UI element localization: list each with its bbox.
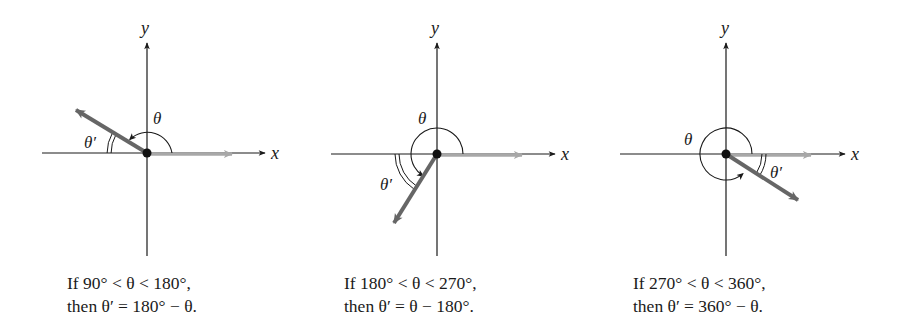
terminal-side-arrow (726, 154, 798, 200)
caption-quadrant-3: If 180° < θ < 270°, then θ′ = θ − 180°. (344, 272, 477, 318)
origin-vertex (143, 149, 152, 158)
theta-arc (130, 132, 172, 153)
origin-vertex (722, 150, 731, 159)
panel-quadrant-2: x y θ θ′ (42, 18, 279, 256)
y-axis-label: y (429, 18, 439, 38)
caption-quadrant-2: If 90° < θ < 180°, then θ′ = 180° − θ. (67, 272, 197, 318)
caption-formula: then θ′ = θ − 180°. (344, 295, 477, 318)
y-axis-label: y (139, 18, 149, 38)
theta-prime-arc-inner (111, 135, 116, 153)
caption-condition: If 270° < θ < 360°, (633, 272, 766, 295)
theta-prime-arc-inner (399, 154, 416, 186)
origin-vertex (433, 150, 442, 159)
theta-prime-label: θ′ (84, 133, 96, 152)
x-axis-label: x (850, 144, 859, 164)
theta-prime-label: θ′ (770, 163, 782, 182)
caption-condition: If 180° < θ < 270°, (344, 272, 477, 295)
x-axis-label: x (270, 143, 279, 163)
theta-prime-arc-inner (756, 154, 762, 174)
caption-quadrant-4: If 270° < θ < 360°, then θ′ = 360° − θ. (633, 272, 766, 318)
caption-condition: If 90° < θ < 180°, (67, 272, 197, 295)
caption-formula: then θ′ = 180° − θ. (67, 295, 197, 318)
theta-label: θ (684, 130, 692, 149)
theta-label: θ (418, 109, 426, 128)
y-axis-label: y (719, 18, 729, 38)
panel-quadrant-3: x y θ θ′ (331, 18, 569, 256)
caption-formula: then θ′ = 360° − θ. (633, 295, 766, 318)
theta-prime-label: θ′ (380, 175, 392, 194)
x-axis-label: x (560, 144, 569, 164)
panel-quadrant-4: x y θ θ′ (620, 18, 859, 256)
theta-label: θ (153, 109, 161, 128)
